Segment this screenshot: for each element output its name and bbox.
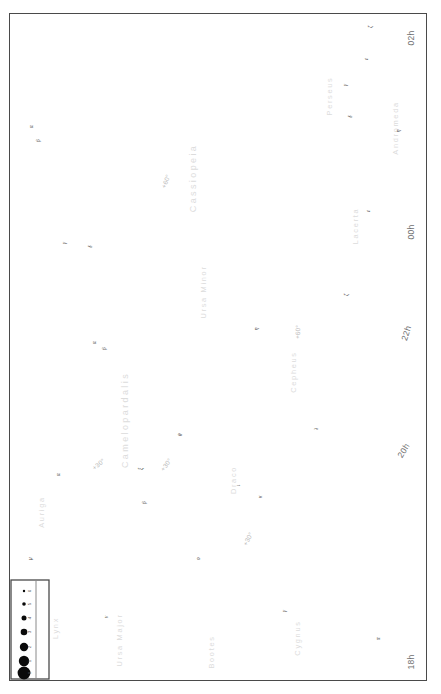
star-chart: 02h 00h 22h 20h 18h +30° +30° +30° +60° … bbox=[0, 0, 441, 694]
chart-border bbox=[9, 13, 427, 681]
